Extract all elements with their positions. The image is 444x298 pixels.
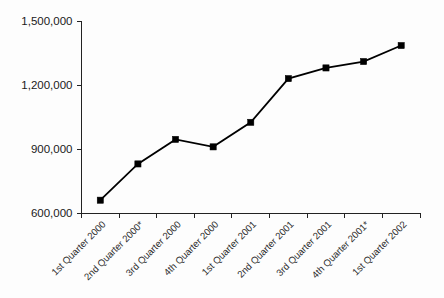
data-point-marker (97, 197, 103, 203)
data-point-marker (398, 42, 404, 48)
y-axis-tick-label: 1,500,000 (21, 15, 72, 27)
data-point-marker (323, 65, 329, 71)
data-point-marker (248, 119, 254, 125)
data-point-marker (360, 58, 366, 64)
data-point-marker (135, 161, 141, 167)
y-axis-tick-label: 600,000 (31, 207, 73, 219)
data-point-marker (285, 76, 291, 82)
y-axis-tick-label: 1,200,000 (21, 79, 72, 91)
data-point-marker (172, 136, 178, 142)
y-axis-tick-label: 900,000 (31, 143, 73, 155)
line-chart: 600,000900,0001,200,0001,500,000 1st Qua… (0, 0, 444, 298)
chart-canvas: 600,000900,0001,200,0001,500,000 1st Qua… (0, 0, 444, 298)
data-point-marker (210, 144, 216, 150)
